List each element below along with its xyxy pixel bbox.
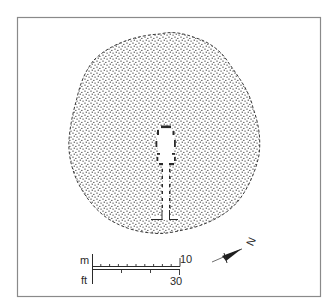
north-arrow: N: [212, 235, 258, 263]
site-plan-diagram: m ft 10 30 N: [0, 0, 326, 307]
scale-metric-max: 10: [180, 253, 192, 265]
burial-chamber: [157, 127, 175, 163]
scale-imperial-max: 30: [170, 275, 182, 287]
passage: [163, 163, 169, 220]
scale-bar: m ft 10 30: [80, 253, 192, 287]
metric-ticks: [101, 258, 180, 267]
north-letter: N: [244, 235, 258, 247]
scale-unit-metric: m: [80, 254, 89, 266]
scale-unit-imperial: ft: [81, 274, 87, 286]
